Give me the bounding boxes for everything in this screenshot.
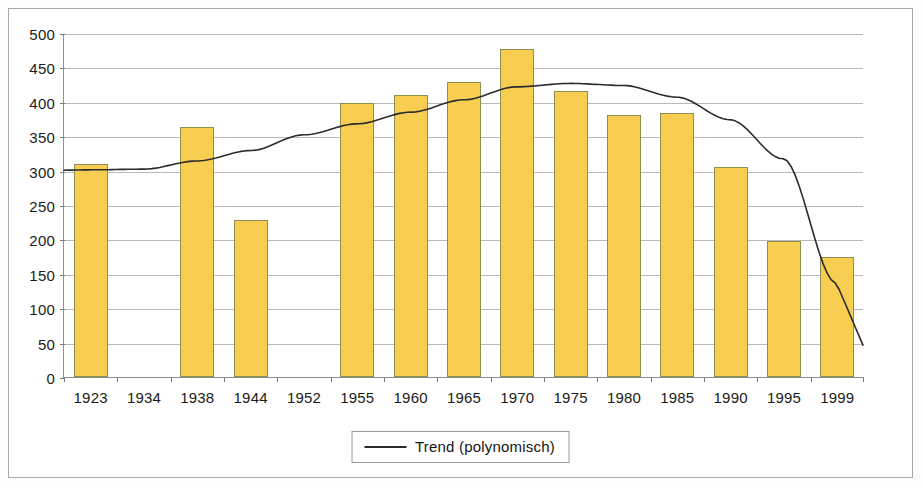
plot-area: 050100150200250300350400450500 192319341…	[63, 34, 863, 378]
x-axis-tick-label: 1955	[331, 389, 384, 406]
x-axis-tick	[331, 377, 332, 382]
x-axis-tick-label: 1965	[437, 389, 490, 406]
bar[interactable]	[607, 115, 641, 377]
x-axis-tick	[437, 377, 438, 382]
bar[interactable]	[820, 257, 854, 377]
x-axis-tick-label: 1995	[757, 389, 810, 406]
y-axis-tick-label: 50	[38, 335, 55, 352]
x-axis-tick-label: 1960	[384, 389, 437, 406]
bar[interactable]	[447, 82, 481, 377]
x-axis-tick-label: 1970	[491, 389, 544, 406]
bar[interactable]	[180, 127, 214, 377]
bar-slot: 1960	[384, 34, 437, 377]
line-sample-icon	[364, 446, 406, 448]
bar-slot: 1952	[277, 34, 330, 377]
y-axis-tick-label: 250	[29, 198, 55, 215]
bar-slot: 1999	[811, 34, 864, 377]
bar[interactable]	[394, 95, 428, 377]
bar-slot: 1934	[117, 34, 170, 377]
y-axis-tick-label: 300	[29, 163, 55, 180]
x-axis-tick	[384, 377, 385, 382]
bar-slot: 1980	[597, 34, 650, 377]
x-axis-tick-label: 1923	[64, 389, 117, 406]
bar-slot: 1995	[757, 34, 810, 377]
bar-slot: 1970	[491, 34, 544, 377]
x-axis-tick	[544, 377, 545, 382]
x-axis-tick-label: 1934	[117, 389, 170, 406]
bar-slot: 1975	[544, 34, 597, 377]
bar-slot: 1990	[704, 34, 757, 377]
x-axis-tick	[597, 377, 598, 382]
x-axis-tick	[863, 377, 864, 382]
x-axis-tick	[757, 377, 758, 382]
x-axis-tick	[224, 377, 225, 382]
bar-slot: 1955	[331, 34, 384, 377]
x-axis-tick-label: 1975	[544, 389, 597, 406]
x-axis-tick	[117, 377, 118, 382]
x-axis-tick	[171, 377, 172, 382]
x-axis-tick-label: 1985	[651, 389, 704, 406]
x-axis-tick-label: 1944	[224, 389, 277, 406]
bar[interactable]	[554, 91, 588, 377]
bar[interactable]	[340, 103, 374, 378]
bar[interactable]	[767, 241, 801, 377]
chart-frame: 050100150200250300350400450500 192319341…	[8, 8, 913, 478]
x-axis-tick	[811, 377, 812, 382]
bar-slot: 1965	[437, 34, 490, 377]
bar[interactable]	[660, 113, 694, 377]
bar[interactable]	[500, 49, 534, 377]
x-axis-tick-label: 1980	[597, 389, 650, 406]
screenshot-root: 050100150200250300350400450500 192319341…	[0, 0, 923, 488]
x-axis-tick	[64, 377, 65, 382]
y-axis-tick-label: 0	[46, 370, 55, 387]
bar-slot: 1923	[64, 34, 117, 377]
bar-slot: 1985	[651, 34, 704, 377]
x-axis-tick	[651, 377, 652, 382]
legend-label: Trend (polynomisch)	[415, 438, 555, 455]
chart-inner: 050100150200250300350400450500 192319341…	[9, 9, 912, 477]
bar[interactable]	[234, 220, 268, 377]
bar-slot: 1938	[171, 34, 224, 377]
y-axis-tick-label: 400	[29, 94, 55, 111]
y-axis-tick-label: 150	[29, 266, 55, 283]
x-axis-tick	[491, 377, 492, 382]
x-axis-tick-label: 1990	[704, 389, 757, 406]
x-axis-tick	[704, 377, 705, 382]
y-axis-tick-label: 450	[29, 60, 55, 77]
y-axis-tick-label: 500	[29, 26, 55, 43]
y-axis-tick-label: 350	[29, 129, 55, 146]
legend: Trend (polynomisch)	[351, 431, 570, 463]
bar-slot: 1944	[224, 34, 277, 377]
y-axis-tick-label: 100	[29, 301, 55, 318]
x-axis-tick-label: 1938	[171, 389, 224, 406]
y-axis-tick-label: 200	[29, 232, 55, 249]
x-axis-tick	[277, 377, 278, 382]
x-axis-tick-label: 1952	[277, 389, 330, 406]
bar[interactable]	[714, 167, 748, 377]
bar[interactable]	[74, 164, 108, 377]
x-axis-tick-label: 1999	[811, 389, 864, 406]
